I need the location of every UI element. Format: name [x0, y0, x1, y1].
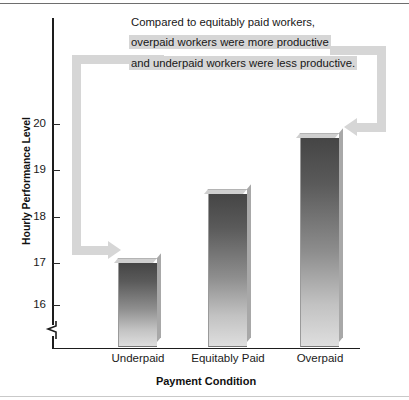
bar-equitably-paid: [208, 194, 247, 347]
bar-underpaid-side-face: [157, 253, 161, 342]
y-tick-mark-18: [53, 217, 60, 218]
plot-area: Compared to equitably paid workers, over…: [0, 0, 409, 400]
bar-overpaid-front-face: [300, 138, 339, 347]
y-tick-mark-19: [53, 170, 60, 171]
annotation-line-2-text: overpaid workers were more productive: [129, 35, 331, 49]
bar-equitably-paid-side-face: [247, 184, 251, 342]
left-annotation-arrowhead-icon: [108, 241, 121, 259]
y-axis-line: [52, 18, 54, 325]
y-tick-mark-16: [53, 305, 60, 306]
annotation-line-2: overpaid workers were more productive: [129, 36, 331, 49]
x-tick-label-equitably-paid: Equitably Paid: [180, 352, 276, 364]
annotation-line-1: Compared to equitably paid workers,: [131, 16, 315, 29]
y-tick-mark-20: [53, 124, 60, 125]
x-tick-label-underpaid: Underpaid: [97, 352, 179, 364]
y-tick-mark-17: [53, 263, 60, 264]
right-annotation-ribbon-vertical: [377, 46, 386, 132]
axis-break-icon: [45, 321, 63, 339]
bar-underpaid-front-face: [118, 263, 157, 347]
bar-chart-figure: Compared to equitably paid workers, over…: [0, 0, 409, 400]
y-tick-label-16: 16: [26, 298, 46, 310]
annotation-line-3: and underpaid workers were less producti…: [129, 57, 357, 70]
bar-overpaid-side-face: [339, 128, 343, 342]
x-axis-line: [52, 348, 360, 350]
y-axis-title: Hourly Performance Level: [20, 111, 32, 251]
annotation-line-3-text: and underpaid workers were less producti…: [129, 56, 357, 70]
bar-overpaid: [300, 138, 339, 347]
right-annotation-arrowhead-icon: [344, 118, 357, 136]
x-tick-label-overpaid: Overpaid: [282, 352, 358, 364]
x-axis-title: Payment Condition: [52, 375, 360, 387]
left-annotation-ribbon-horizontal-bottom: [72, 246, 108, 255]
left-annotation-ribbon-vertical: [72, 55, 81, 255]
bar-underpaid: [118, 263, 157, 347]
right-annotation-ribbon-horizontal-bottom: [357, 123, 386, 132]
bar-equitably-paid-front-face: [208, 194, 247, 347]
y-tick-label-17: 17: [26, 256, 46, 268]
